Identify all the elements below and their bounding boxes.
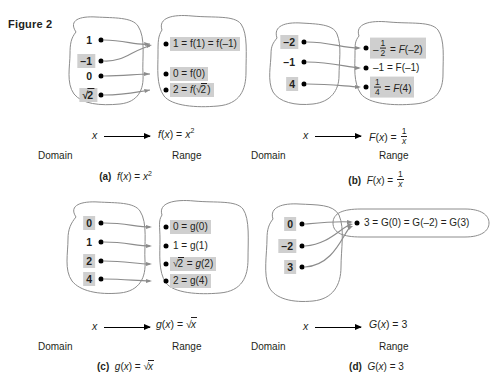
arrow-head-2 <box>146 244 152 248</box>
domain-label: Domain <box>38 341 72 352</box>
panel-a-diagram: 1 –1 0 √2 1 = f(1) = f(–1) 0 = f(0) 2 = … <box>0 0 251 125</box>
domain-dot <box>99 221 104 226</box>
panel-b-axis-labels: Domain Range <box>251 150 502 166</box>
caption-formula: F(x) = 1x <box>364 175 405 186</box>
range-value: –12 = F(–2) <box>370 38 426 59</box>
arrow-head-4 <box>146 279 152 283</box>
map-formula: F(x) = 1x <box>369 127 408 146</box>
arrow-head-1 <box>355 46 361 50</box>
range-dot <box>164 279 169 284</box>
range-dot <box>355 221 360 226</box>
arrow-path-3 <box>307 84 359 87</box>
caption-letter: (c) <box>97 361 109 372</box>
caption-formula: g(x) = √x <box>112 361 154 372</box>
domain-value: 1 <box>83 235 95 249</box>
domain-dot <box>99 38 104 43</box>
map-x-label: x <box>92 320 97 332</box>
panel-b-maprow: x F(x) = 1x <box>251 126 502 148</box>
panel-d-caption: (d) G(x) = 3 <box>251 361 502 372</box>
panel-a-axis-labels: Domain Range <box>0 150 251 166</box>
range-value: 0 = f(0) <box>170 67 208 81</box>
domain-value: 4 <box>83 272 95 286</box>
arrow-path-3 <box>104 261 150 264</box>
panel-c-caption: (c) g(x) = √x <box>0 361 251 372</box>
panel-d-diagram: 0 –2 3 3 = G(0) = G(–2) = G(3) <box>251 191 502 316</box>
panel-a-caption: (a) f(x) = x2 <box>0 170 251 182</box>
range-dot <box>164 42 169 47</box>
domain-dot <box>302 60 307 65</box>
range-dot <box>364 85 369 90</box>
domain-dot <box>99 259 104 264</box>
panel-d-maprow: x G(x) = 3 <box>251 317 502 339</box>
domain-value: 4 <box>286 77 298 91</box>
domain-value: 1 <box>83 33 95 47</box>
panel-c-maprow: x g(x) = √x <box>0 317 251 339</box>
domain-dot <box>300 222 305 227</box>
arrow-path-1 <box>307 42 359 48</box>
map-arrow-icon <box>104 327 150 328</box>
arrow-path-2 <box>104 242 150 246</box>
domain-dot <box>99 93 104 98</box>
panel-b-caption: (b) F(x) = 1x <box>251 170 502 189</box>
map-formula: f(x) = x2 <box>158 127 194 140</box>
range-value: 1 = g(1) <box>170 239 211 253</box>
panel-c-diagram: 0 1 2 4 0 = g(0) 1 = g(1) √2 = g(2) 2 = … <box>0 191 251 316</box>
panel-d-svg <box>251 191 502 316</box>
panel-c-svg <box>0 191 251 316</box>
arrow-head-2 <box>355 66 361 70</box>
caption-letter: (b) <box>348 175 361 186</box>
map-x-label: x <box>303 320 308 332</box>
domain-dot <box>302 82 307 87</box>
arrow-path-1 <box>104 223 150 227</box>
arrow-path-4 <box>104 90 150 95</box>
panel-d: 0 –2 3 3 = G(0) = G(–2) = G(3) x G(x) = … <box>251 191 502 382</box>
range-dot <box>164 244 169 249</box>
domain-dot <box>99 240 104 245</box>
range-value: 14 = F(4) <box>370 77 414 98</box>
caption-formula: G(x) = 3 <box>365 361 404 372</box>
domain-value: –2 <box>278 239 296 253</box>
map-arrow-icon <box>104 136 150 137</box>
range-value: 2 = f(√2) <box>170 83 214 97</box>
domain-dot <box>300 265 305 270</box>
range-value: 3 = G(0) = G(–2) = G(3) <box>361 216 472 230</box>
arrow-path-2 <box>307 62 359 68</box>
range-dot <box>364 66 369 71</box>
range-label: Range <box>172 150 201 161</box>
panel-a-maprow: x f(x) = x2 <box>0 126 251 148</box>
range-dot <box>164 88 169 93</box>
domain-value: 3 <box>284 260 296 274</box>
domain-value: –1 <box>280 55 298 69</box>
panel-b: –2 –1 4 –12 = F(–2) –1 = F(–1) 14 = F(4)… <box>251 0 502 191</box>
range-value: 2 = g(4) <box>170 274 211 288</box>
map-arrow-icon <box>315 327 361 328</box>
domain-value: –2 <box>280 35 298 49</box>
panel-d-axis-labels: Domain Range <box>251 341 502 357</box>
domain-label: Domain <box>38 150 72 161</box>
map-formula: G(x) = 3 <box>369 318 407 330</box>
caption-letter: (d) <box>349 361 362 372</box>
domain-label: Domain <box>251 341 285 352</box>
panel-a-svg <box>0 0 251 125</box>
arrow-head-3 <box>144 72 150 76</box>
arrow-head-3 <box>146 262 152 266</box>
arrow-head-2 <box>146 44 152 48</box>
map-x-label: x <box>92 129 97 141</box>
domain-dot <box>99 59 104 64</box>
range-dot <box>164 72 169 77</box>
panel-c-axis-labels: Domain Range <box>0 341 251 357</box>
caption-letter: (a) <box>99 171 111 182</box>
range-value: –1 = F(–1) <box>370 61 422 75</box>
arrow-head-1 <box>146 225 152 229</box>
domain-value: 0 <box>83 69 95 83</box>
arrow-path-3 <box>305 226 351 267</box>
range-value: 0 = g(0) <box>170 220 211 234</box>
domain-dot <box>99 277 104 282</box>
range-dot <box>164 262 169 267</box>
domain-dot <box>300 244 305 249</box>
domain-value: –1 <box>77 54 95 68</box>
arrow-path-4 <box>104 279 150 281</box>
range-label: Range <box>379 150 408 161</box>
panel-b-diagram: –2 –1 4 –12 = F(–2) –1 = F(–1) 14 = F(4) <box>251 0 502 125</box>
arrow-path-1 <box>305 222 351 224</box>
